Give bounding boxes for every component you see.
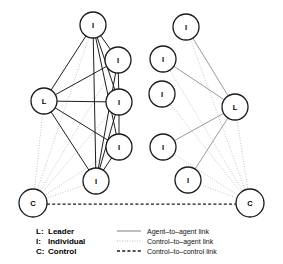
agent-link: [44, 101, 96, 181]
right-network-nodes: I I I I I L C: [149, 14, 264, 217]
node-control[interactable]: C: [236, 189, 264, 217]
legend-key-individual: I:: [36, 237, 41, 246]
node-label: I: [92, 21, 94, 30]
node-label: I: [117, 56, 119, 65]
node-leader[interactable]: L: [222, 94, 248, 120]
agent-link: [93, 25, 96, 181]
node-label: I: [187, 176, 189, 185]
legend-key-control: C:: [36, 247, 44, 256]
node-label: L: [42, 97, 47, 106]
legend-node-types: L: Leader I: Individual C: Control: [36, 227, 85, 256]
legend-link-types: Agent–to–agent link Control–to–agent lin…: [117, 228, 217, 255]
node-individual[interactable]: I: [150, 134, 176, 160]
legend-term-control: Control: [48, 247, 76, 256]
node-label: L: [233, 103, 238, 112]
legend-label-control-control-link: Control–to–control link: [147, 248, 217, 255]
legend-key-leader: L:: [36, 227, 44, 236]
node-label: C: [30, 199, 36, 208]
node-label: I: [161, 90, 163, 99]
legend-label-control-agent-link: Control–to–agent link: [147, 238, 214, 246]
node-label: I: [162, 55, 164, 64]
node-individual[interactable]: I: [105, 47, 131, 73]
node-label: C: [247, 199, 253, 208]
node-label: I: [118, 143, 120, 152]
node-individual[interactable]: I: [80, 12, 106, 38]
node-label: I: [95, 177, 97, 186]
node-individual[interactable]: I: [175, 167, 201, 193]
legend-term-individual: Individual: [48, 237, 85, 246]
node-control[interactable]: C: [19, 189, 47, 217]
node-individual[interactable]: I: [149, 81, 175, 107]
legend-term-leader: Leader: [48, 227, 74, 236]
node-leader[interactable]: L: [31, 88, 57, 114]
left-network-nodes: I I I I I L C: [19, 12, 132, 217]
node-individual[interactable]: I: [106, 134, 132, 160]
node-individual[interactable]: I: [106, 89, 132, 115]
network-diagram: I I I I I L C I: [0, 0, 283, 264]
node-individual[interactable]: I: [173, 14, 199, 40]
legend-label-agent-link: Agent–to–agent link: [147, 228, 209, 236]
node-individual[interactable]: I: [83, 168, 109, 194]
agent-link: [96, 60, 118, 181]
node-label: I: [118, 98, 120, 107]
node-label: I: [185, 23, 187, 32]
node-label: I: [162, 143, 164, 152]
node-individual[interactable]: I: [150, 46, 176, 72]
